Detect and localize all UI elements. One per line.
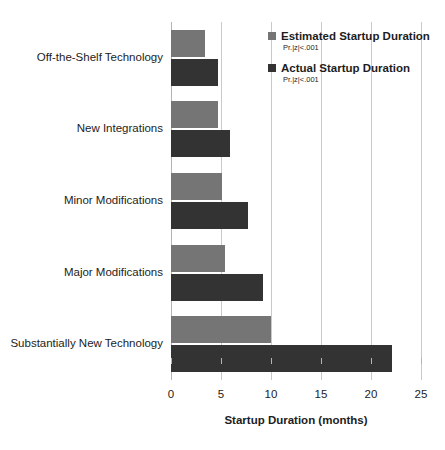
x-axis-title: Startup Duration (months) (171, 414, 421, 426)
legend-label-estimated: Estimated Startup Duration (281, 30, 430, 42)
x-tick-label-5: 5 (218, 388, 224, 400)
tickmark-20 (371, 358, 372, 364)
bar-estimated-4 (171, 316, 271, 343)
category-label-3: Major Modifications (0, 267, 163, 279)
x-tick-label-15: 15 (315, 388, 328, 400)
tickmark-5 (221, 358, 222, 364)
bar-actual-0 (171, 59, 218, 86)
bar-estimated-0 (171, 30, 205, 57)
category-axis-labels: Off-the-Shelf TechnologyNew Integrations… (0, 0, 163, 450)
x-tick-label-0: 0 (168, 388, 174, 400)
bar-actual-1 (171, 130, 230, 157)
bar-chart: Off-the-Shelf TechnologyNew Integrations… (0, 0, 445, 450)
bar-actual-2 (171, 202, 248, 229)
bar-estimated-3 (171, 245, 225, 272)
x-tick-label-25: 25 (415, 388, 428, 400)
legend-swatch-estimated-icon (268, 32, 276, 40)
tickmark-0 (171, 358, 172, 364)
bar-estimated-2 (171, 173, 222, 200)
legend-entry-estimated: Estimated Startup Duration Pr.|z|<.001 (268, 30, 443, 52)
category-label-0: Off-the-Shelf Technology (0, 52, 163, 64)
legend-swatch-actual-icon (268, 64, 276, 72)
bar-actual-3 (171, 274, 263, 301)
category-label-4: Substantially New Technology (0, 338, 163, 350)
legend-label-actual: Actual Startup Duration (281, 62, 410, 74)
category-label-1: New Integrations (0, 123, 163, 135)
legend-entry-actual: Actual Startup Duration Pr.|z|<.001 (268, 62, 443, 84)
bar-actual-4 (171, 345, 392, 372)
chart-legend: Estimated Startup Duration Pr.|z|<.001 A… (268, 30, 443, 94)
tickmark-15 (321, 358, 322, 364)
tickmark-25 (421, 358, 422, 364)
tickmark-10 (271, 358, 272, 364)
x-tick-label-20: 20 (365, 388, 378, 400)
legend-sub-estimated: Pr.|z|<.001 (283, 43, 443, 52)
category-label-2: Minor Modifications (0, 195, 163, 207)
x-tick-label-10: 10 (265, 388, 278, 400)
legend-sub-actual: Pr.|z|<.001 (283, 75, 443, 84)
bar-estimated-1 (171, 101, 218, 128)
